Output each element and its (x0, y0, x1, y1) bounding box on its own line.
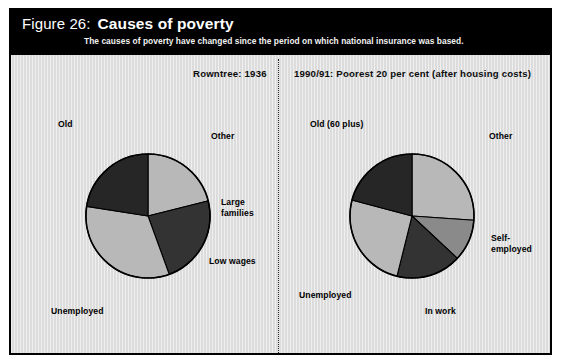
figure-subtitle: The causes of poverty have changed since… (84, 36, 464, 46)
label-other-1936: Other (211, 131, 234, 142)
label-old-1936: Old (58, 119, 73, 130)
panel-title-left: Rowntree: 1936 (193, 68, 267, 79)
label-low-wages: Low wages (209, 256, 256, 267)
pie-slice-old-1936 (87, 154, 149, 216)
label-unemployed-1990: Unemployed (299, 290, 352, 301)
pie-chart-1990-91 (348, 152, 476, 280)
label-in-work: In work (425, 306, 456, 317)
page-title: Causes of poverty (98, 15, 234, 32)
figure-number: Figure 26: (22, 15, 91, 32)
figure-title-row: Figure 26:Causes of poverty (22, 15, 234, 33)
panel-title-right: 1990/91: Poorest 20 per cent (after hous… (294, 68, 531, 79)
label-old-1990: Old (60 plus) (310, 119, 363, 130)
label-large-families: Large families (221, 197, 273, 218)
panel-divider (278, 59, 279, 355)
label-other-1990: Other (489, 131, 512, 142)
pie-slice-other-1990 (412, 154, 474, 220)
figure-header-bar: Figure 26:Causes of poverty The causes o… (11, 10, 550, 55)
label-unemployed-1936: Unemployed (51, 306, 104, 317)
figure-container: Figure 26:Causes of poverty The causes o… (9, 8, 552, 355)
charts-area: Rowntree: 1936 1990/91: Poorest 20 per c… (11, 55, 550, 355)
label-self-employed: Self-employed (491, 233, 546, 254)
pie-chart-rowntree-1936 (84, 152, 212, 280)
